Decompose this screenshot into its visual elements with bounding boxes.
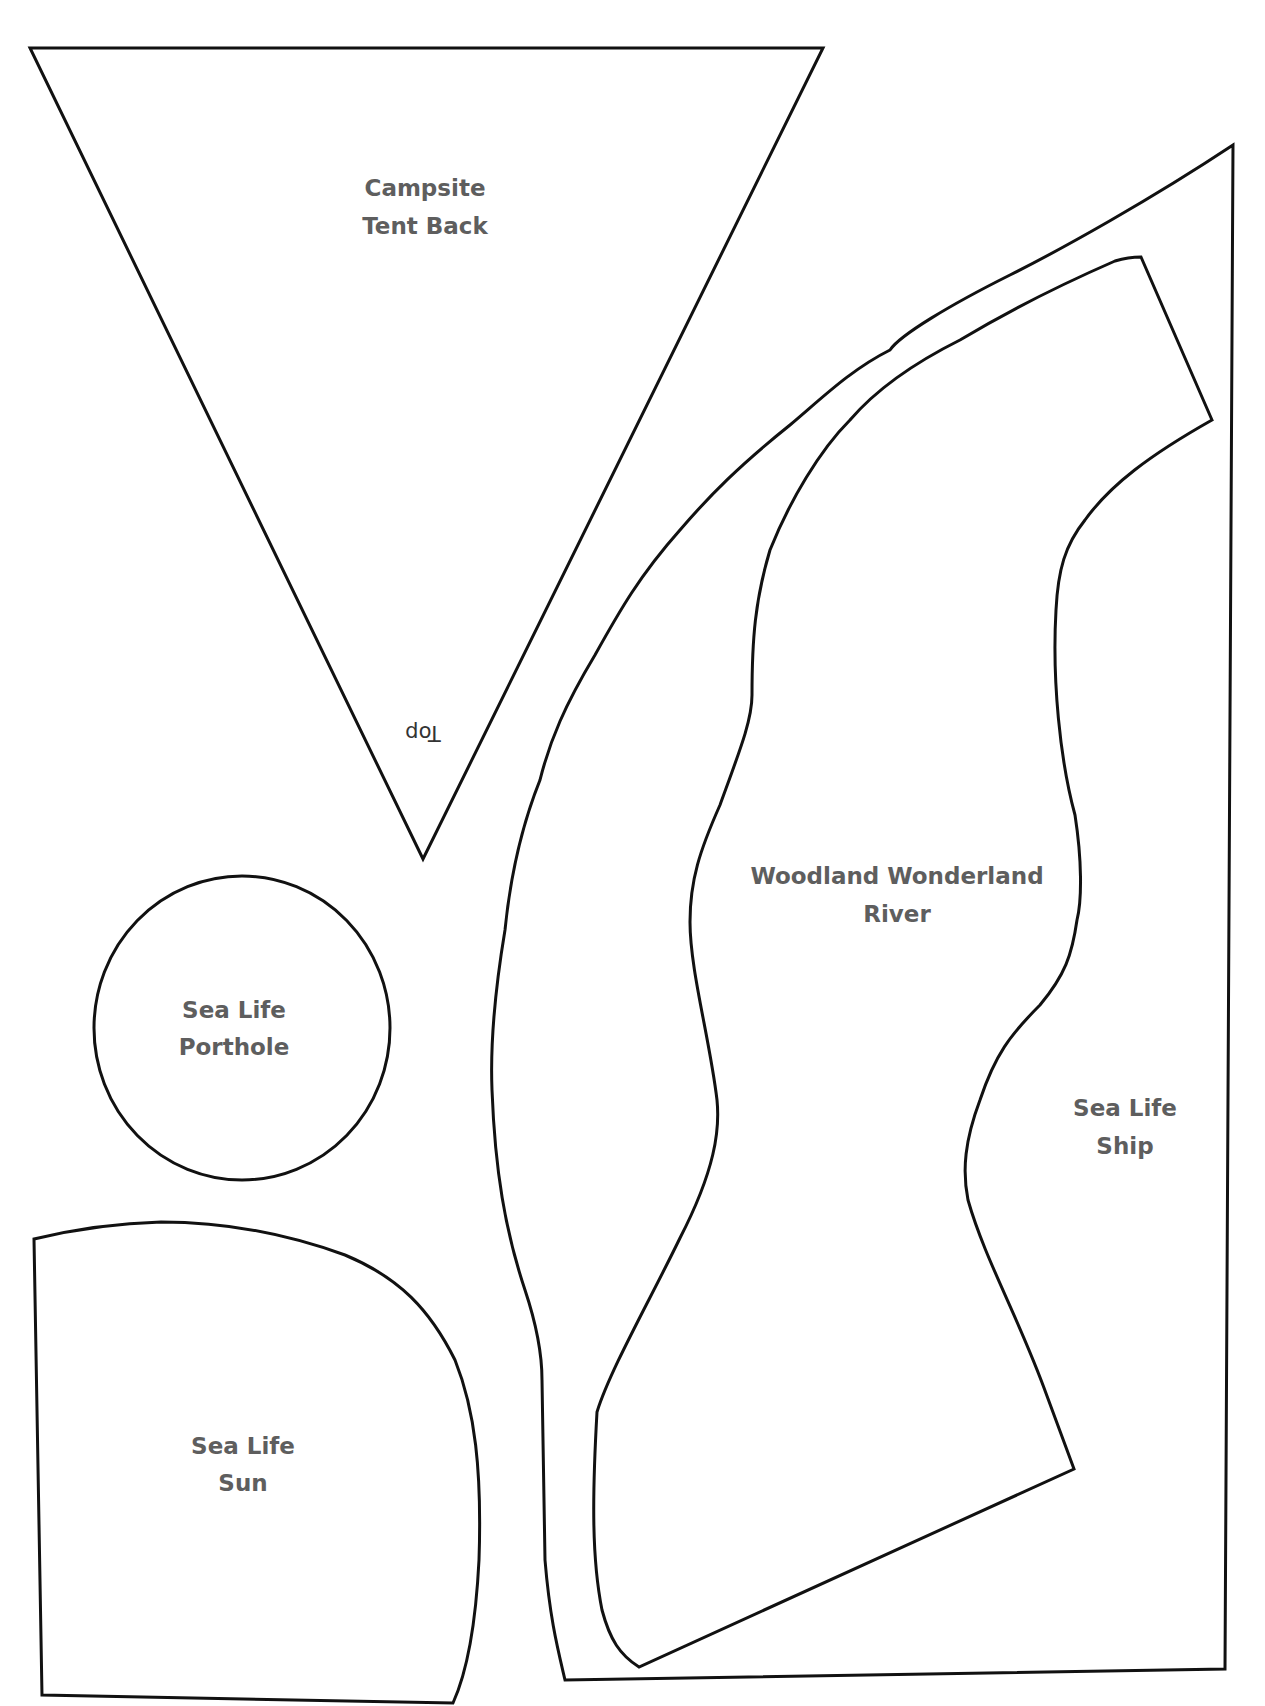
river-label-line1: Woodland Wonderland (750, 863, 1043, 889)
svg-text:Top: Top (405, 721, 441, 745)
svg-text:Sea Life: Sea Life (1073, 1095, 1177, 1121)
svg-text:Tent Back: Tent Back (362, 213, 488, 239)
porthole-label-line2: Porthole (179, 1034, 290, 1060)
porthole-label-line1: Sea Life (182, 997, 286, 1023)
porthole-piece: Sea Life Porthole (94, 876, 390, 1180)
river-piece: Woodland Wonderland River (594, 257, 1212, 1667)
tent-back-piece: Campsite Tent Back Top (30, 48, 823, 859)
tent-label-line2: Tent Back (362, 213, 488, 239)
pattern-sheet: Campsite Tent Back Top Sea Life Ship Woo… (0, 0, 1265, 1706)
sun-piece: Sea Life Sun (34, 1222, 480, 1703)
tent-label-line1: Campsite (365, 175, 486, 201)
svg-text:Campsite: Campsite (365, 175, 486, 201)
sun-label-line2: Sun (218, 1470, 267, 1496)
svg-text:Sun: Sun (218, 1470, 267, 1496)
svg-text:Porthole: Porthole (179, 1034, 290, 1060)
svg-text:Sea Life: Sea Life (191, 1433, 295, 1459)
svg-text:Woodland Wonderland: Woodland Wonderland (750, 863, 1043, 889)
tent-top-marker: Top (405, 721, 441, 745)
river-label-line2: River (863, 901, 931, 927)
svg-text:Sea Life: Sea Life (182, 997, 286, 1023)
ship-label-line1: Sea Life (1073, 1095, 1177, 1121)
svg-text:River: River (863, 901, 931, 927)
svg-text:Ship: Ship (1096, 1133, 1153, 1159)
sun-label-line1: Sea Life (191, 1433, 295, 1459)
ship-label-line2: Ship (1096, 1133, 1153, 1159)
